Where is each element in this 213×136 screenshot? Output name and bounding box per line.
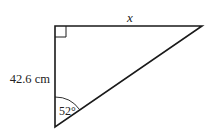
side-label-height: 42.6 cm	[10, 72, 51, 86]
right-angle-marker	[55, 26, 66, 37]
triangle	[55, 26, 202, 127]
side-label-x: x	[126, 10, 133, 25]
triangle-diagram: x 42.6 cm 52°	[0, 0, 213, 136]
angle-label: 52°	[59, 104, 76, 118]
